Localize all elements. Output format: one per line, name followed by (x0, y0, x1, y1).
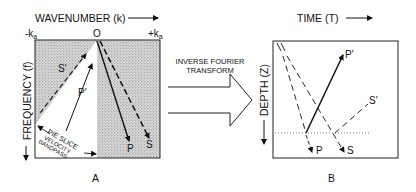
inverse-fourier-transform: INVERSE FOURIER TRANSFORM (168, 57, 252, 126)
large-transform-arrow-icon (168, 74, 252, 126)
s-prime-label-a: S' (58, 63, 67, 74)
transform-label-line2: TRANSFORM (186, 66, 234, 75)
panel-b: TIME (T) DEPTH (Z) P S P' S' B (258, 12, 398, 184)
tick-minus-ka: -ka (25, 28, 37, 40)
wavenumber-axis-label: WAVENUMBER (k) (35, 12, 125, 24)
s-label-a: S (146, 139, 153, 150)
p-label-a: P (127, 143, 134, 154)
p-prime-label-b: P' (345, 49, 354, 60)
s-prime-label-b: S' (369, 95, 378, 106)
p-prime-label-a: P' (78, 87, 87, 98)
fk-filter-diagram: WAVENUMBER (k) -ka O +ka FREQUENCY (f) S… (0, 0, 416, 192)
transform-label-line1: INVERSE FOURIER (176, 57, 245, 66)
depth-time-box (273, 41, 398, 158)
tick-plus-ka: +ka (148, 28, 163, 40)
panel-b-label: B (328, 172, 335, 184)
panel-a: WAVENUMBER (k) -ka O +ka FREQUENCY (f) S… (21, 12, 163, 184)
panel-a-label: A (92, 172, 99, 184)
time-axis-label: TIME (T) (297, 12, 338, 24)
s-label-b: S (347, 145, 354, 156)
p-label-b: P (316, 145, 323, 156)
frequency-axis-label: FREQUENCY (f) (21, 61, 33, 140)
tick-origin: O (93, 28, 101, 39)
depth-axis-label: DEPTH (Z) (258, 64, 270, 116)
